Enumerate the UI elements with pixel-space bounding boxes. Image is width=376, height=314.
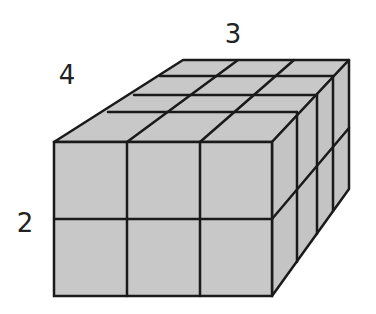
height-label: 2 — [17, 208, 34, 238]
depth-label: 4 — [59, 60, 76, 90]
width-label: 3 — [225, 19, 242, 49]
cube-prism-diagram: 3 4 2 — [0, 0, 376, 314]
